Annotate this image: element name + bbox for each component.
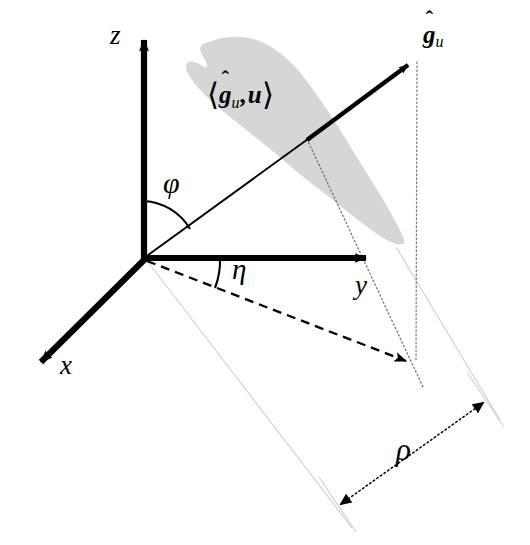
region-g-hat-glyph: ˆ g	[219, 82, 232, 107]
angle-bracket-open-icon: ⟨	[207, 78, 219, 112]
x-axis-line	[41, 259, 145, 362]
label-comma: ,	[240, 81, 246, 108]
hat-accent-icon: ˆ	[425, 8, 433, 31]
eta-angle-arc	[215, 258, 220, 288]
g-hat-glyph: ˆ g	[423, 22, 436, 47]
rho-dimension-arrow	[341, 403, 483, 504]
rho-dimension-label: ρ	[396, 434, 411, 465]
vector-label-g-hat-u: ˆ g u	[423, 22, 444, 50]
region-u-vector-letter: u	[248, 81, 262, 108]
inner-product-region-shape	[186, 37, 404, 245]
x-axis-label: x	[60, 352, 72, 379]
g-subscript-u: u	[436, 33, 444, 50]
z-axis-label: z	[110, 22, 121, 49]
eta-angle-label: η	[232, 255, 246, 284]
vector-arrow-head-segment	[307, 65, 408, 140]
figure-root: x y z φ η ρ ˆ g u ⟨ ˆ g u, u⟩	[0, 0, 530, 545]
y-axis-label: y	[355, 272, 367, 299]
rho-extension-upper	[467, 372, 504, 427]
region-hat-accent-icon: ˆ	[221, 68, 229, 91]
inner-product-label: ⟨ ˆ g u, u⟩	[207, 80, 274, 111]
region-g-subscript-u: u	[232, 94, 240, 111]
faint-ray-right	[396, 247, 500, 420]
phi-angle-arc	[144, 201, 190, 229]
angle-bracket-close-icon: ⟩	[262, 78, 274, 112]
vertical-dotted-drop-line	[416, 62, 417, 360]
phi-angle-label: φ	[163, 168, 180, 198]
rho-extension-lower	[319, 477, 356, 532]
